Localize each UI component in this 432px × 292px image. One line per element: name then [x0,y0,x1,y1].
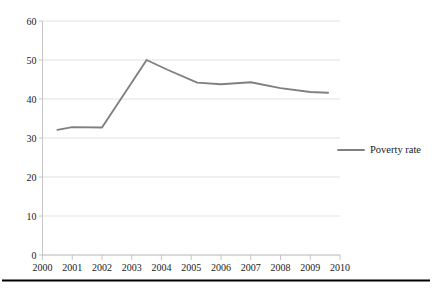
x-tick-label-2000: 2000 [33,262,53,273]
x-tick-label-2001: 2001 [62,262,82,273]
x-tick-label-2002: 2002 [92,262,112,273]
y-tick-label-60: 60 [27,16,37,27]
line-chart: 0102030405060 20002001200220032004200520… [0,0,432,292]
x-axis-tick-labels: 2000200120022003200420052006200720082009… [33,262,351,273]
x-tick-label-2010: 2010 [330,262,350,273]
x-tick-label-2006: 2006 [211,262,231,273]
x-tick-label-2008: 2008 [271,262,291,273]
x-tick-label-2004: 2004 [152,262,172,273]
y-tick-label-50: 50 [27,55,37,66]
x-tick-label-2005: 2005 [181,262,201,273]
y-tick-label-40: 40 [27,94,37,105]
legend-label-0: Poverty rate [370,144,421,155]
chart-background [0,0,432,292]
x-tick-label-2009: 2009 [300,262,320,273]
x-tick-label-2007: 2007 [241,262,261,273]
chart-container: 0102030405060 20002001200220032004200520… [0,0,432,292]
y-tick-label-0: 0 [32,250,37,261]
y-tick-label-10: 10 [27,211,37,222]
y-tick-label-30: 30 [27,133,37,144]
y-tick-label-20: 20 [27,172,37,183]
x-tick-label-2003: 2003 [122,262,142,273]
